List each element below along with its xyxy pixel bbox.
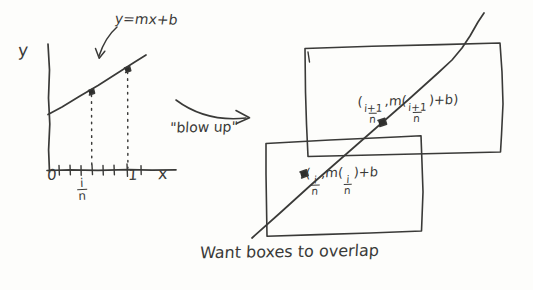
upper-close-paren: ): [453, 92, 459, 107]
fraction-numerator: i: [79, 177, 85, 189]
y-axis-label: y: [17, 42, 28, 60]
lower-frac1-den: n: [310, 185, 319, 197]
sketch-canvas: y x 0 1 i n y=mx+b "blow up" Want boxes …: [0, 0, 533, 290]
x-axis: [47, 170, 176, 171]
lower-fraction-2: i n: [343, 174, 353, 196]
fraction-i-over-n: i n: [77, 177, 87, 202]
upper-frac1-den: n: [368, 113, 377, 125]
y-axis: [48, 44, 50, 172]
upper-m: m: [388, 93, 402, 108]
lower-frac1-num: i: [313, 174, 319, 185]
upper-frac2-num: i+1: [407, 101, 428, 112]
upper-open-paren: (: [357, 94, 363, 109]
one-tick-label: 1: [128, 168, 139, 183]
lower-fraction-1: i n: [310, 174, 320, 196]
upper-fraction-1: i+1 n: [362, 102, 384, 124]
equation-pointer-arrow: [99, 27, 117, 56]
upper-box-corner-artifact: [308, 52, 310, 62]
fraction-denominator: n: [77, 189, 87, 202]
blow-up-arrow-shaft: [176, 100, 246, 119]
upper-box-coordinate-label: ( i+1 n ,m( i+1 n )+b): [356, 93, 459, 125]
tick-fraction-label: i n: [75, 166, 88, 202]
graph-point-i-over-n: [89, 89, 95, 95]
lower-frac2-num: i: [345, 174, 351, 185]
lower-plus-b: +b: [358, 164, 378, 179]
origin-label: 0: [47, 168, 58, 183]
blow-up-label: "blow up": [170, 120, 239, 135]
upper-frac1-num: i+1: [363, 102, 384, 113]
upper-fraction-2: i+1 n: [406, 101, 428, 123]
x-axis-label: x: [158, 166, 168, 182]
upper-frac2-den: n: [412, 112, 421, 124]
line-equation-label: y=mx+b: [114, 11, 179, 27]
lower-frac2-den: n: [343, 184, 352, 196]
graph-line: [48, 55, 146, 115]
upper-plus-b: +b: [434, 92, 454, 107]
lower-box-coordinate-label: ( i n ,m( i n )+b: [304, 165, 378, 196]
caption-text: Want boxes to overlap: [200, 243, 380, 262]
